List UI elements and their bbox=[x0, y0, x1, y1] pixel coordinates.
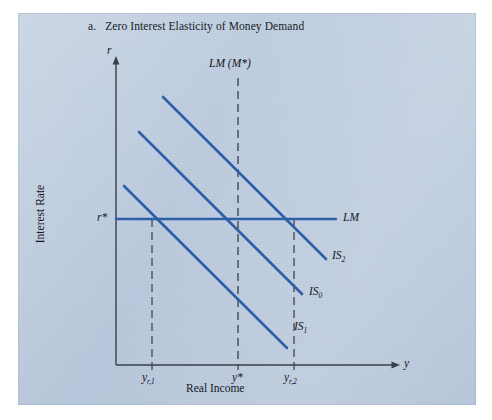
x-axis-ticks bbox=[152, 365, 294, 370]
y-r1-tick-label: yr,1 bbox=[142, 371, 155, 383]
is2-curve[interactable] bbox=[163, 97, 326, 259]
x-axis-arrowhead bbox=[392, 362, 401, 369]
is2-curve-label: IS2 bbox=[332, 249, 345, 261]
is2-label-subscript: 2 bbox=[342, 255, 346, 264]
y-axis-arrowhead bbox=[113, 56, 120, 65]
x-axis-symbol-label: y bbox=[404, 357, 409, 369]
is0-curve[interactable] bbox=[139, 132, 302, 294]
dashed-lines-group bbox=[152, 78, 294, 365]
curve-group bbox=[116, 97, 336, 348]
y-r2-tick-label: yr,2 bbox=[284, 371, 297, 383]
is0-curve-label: IS0 bbox=[309, 285, 322, 297]
x-axis-title: Real Income bbox=[186, 382, 244, 394]
is0-label-subscript: 0 bbox=[319, 291, 323, 300]
y-star-tick-label: y* bbox=[232, 371, 243, 383]
is1-label-text: IS bbox=[294, 320, 304, 332]
y-axis-symbol-label: r bbox=[107, 44, 111, 56]
y-r2-label-subscript: r,2 bbox=[289, 377, 297, 386]
is1-curve[interactable] bbox=[124, 186, 287, 348]
lm-curve-label: LM bbox=[343, 211, 359, 223]
lm-money-supply-label: LM (M*) bbox=[209, 57, 251, 69]
y-axis-title: Interest Rate bbox=[34, 154, 46, 274]
is1-label-subscript: 1 bbox=[304, 326, 308, 335]
y-r1-label-subscript: r,1 bbox=[147, 377, 155, 386]
r-star-tick-label: r* bbox=[97, 211, 107, 223]
is1-curve-label: IS1 bbox=[294, 320, 307, 332]
is0-label-text: IS bbox=[309, 285, 319, 297]
figure-container: a. Zero Interest Elasticity of Money Dem… bbox=[0, 0, 492, 420]
is2-label-text: IS bbox=[332, 249, 342, 261]
